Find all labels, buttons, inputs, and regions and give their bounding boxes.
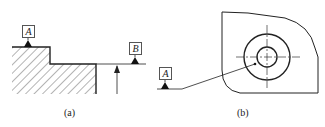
drawing-canvas (0, 0, 325, 127)
datum-triangle-b (131, 57, 139, 64)
datum-label-a: A (22, 25, 35, 38)
caption-b: (b) (237, 107, 249, 118)
caption-a: (a) (64, 107, 75, 118)
datum-label-a-fig-b: A (159, 67, 172, 80)
part-b-view (157, 12, 318, 93)
datum-triangle-a-b (161, 82, 169, 89)
datum-triangle-a (24, 40, 32, 47)
datum-label-b: B (129, 42, 142, 55)
part-a-section (12, 37, 146, 94)
